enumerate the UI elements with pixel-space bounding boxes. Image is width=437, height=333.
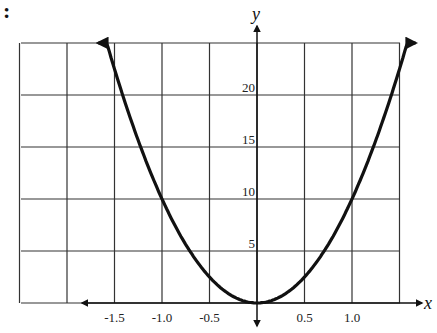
x-tick-label: 0.5 xyxy=(296,310,312,325)
x-tick-label: -1.0 xyxy=(152,310,173,325)
parabola-chart: -1.5-1.0-0.50.51.05101520 x y xyxy=(0,0,437,333)
y-tick-label: 15 xyxy=(242,132,255,147)
grid-lines xyxy=(20,43,401,303)
tick-labels: -1.5-1.0-0.50.51.05101520 xyxy=(104,80,360,325)
y-tick-label: 20 xyxy=(242,80,255,95)
axes xyxy=(82,26,422,326)
y-tick-label: 10 xyxy=(242,184,255,199)
x-tick-label: 1.0 xyxy=(344,310,360,325)
x-tick-label: -1.5 xyxy=(104,310,125,325)
x-axis-label: x xyxy=(423,293,432,313)
y-tick-label: 5 xyxy=(249,236,256,251)
y-axis-label: y xyxy=(250,4,260,24)
x-tick-label: -0.5 xyxy=(199,310,220,325)
